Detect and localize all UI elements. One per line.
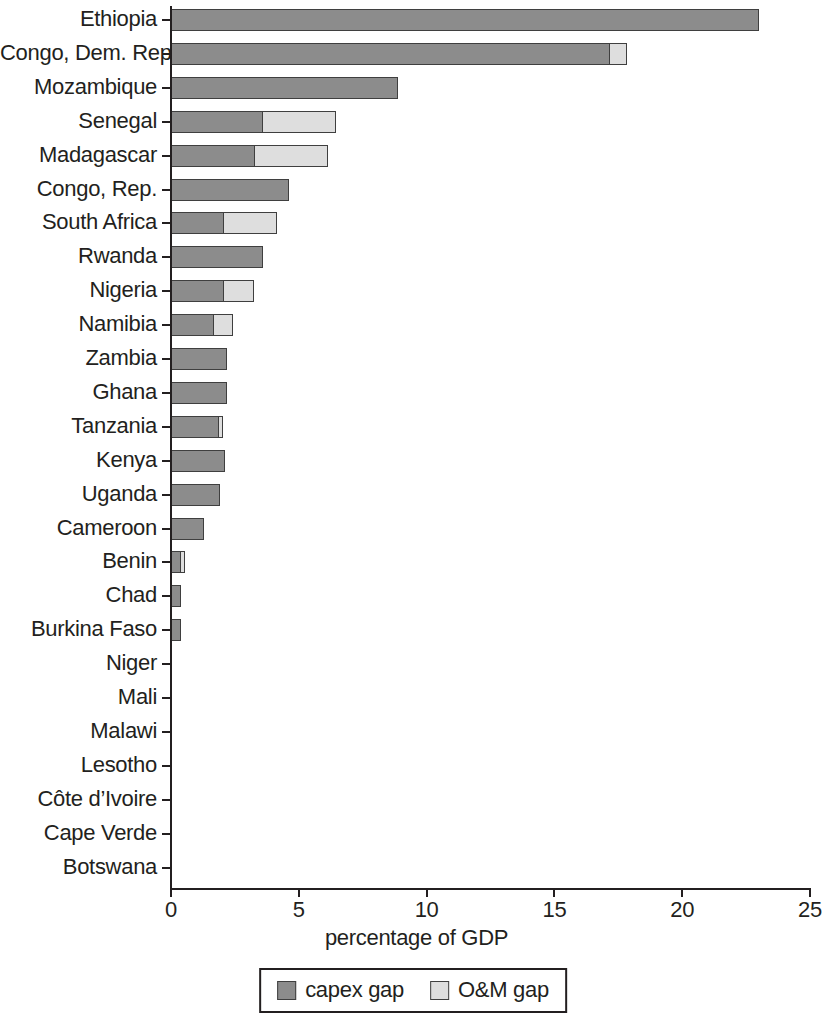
- bar-segment-capex-gap: [171, 585, 181, 607]
- bar-segment-capex-gap: [171, 179, 289, 201]
- x-axis-tick-label: 10: [415, 897, 439, 923]
- bar-segment-om-gap: [180, 551, 185, 573]
- bar-segment-capex-gap: [171, 246, 263, 268]
- bar-segment-om-gap: [223, 212, 277, 234]
- bar-segment-capex-gap: [171, 9, 759, 31]
- y-axis-tick-label: Cameroon: [0, 515, 157, 541]
- y-axis-tick-label: Burkina Faso: [0, 616, 157, 642]
- bar-row: Malawi: [0, 715, 826, 749]
- bar-row: Benin: [0, 545, 826, 579]
- bar-row: Tanzania: [0, 410, 826, 444]
- y-axis-tick-label: Mali: [0, 684, 157, 710]
- bar-row: Senegal: [0, 105, 826, 139]
- y-axis-tick-label: Ghana: [0, 379, 157, 405]
- y-axis-tick-label: Chad: [0, 582, 157, 608]
- bar-chart: EthiopiaCongo, Dem. Rep.MozambiqueSenega…: [0, 0, 826, 1013]
- y-axis-tick-label: Zambia: [0, 345, 157, 371]
- y-axis-tick-label: Tanzania: [0, 413, 157, 439]
- bar-row: Ghana: [0, 376, 826, 410]
- bar-row: Côte d’Ivoire: [0, 783, 826, 817]
- plot-area: EthiopiaCongo, Dem. Rep.MozambiqueSenega…: [0, 0, 826, 890]
- bar-segment-capex-gap: [171, 484, 220, 506]
- x-axis-tick: [553, 888, 555, 897]
- x-axis-tick: [298, 888, 300, 897]
- bar-segment-om-gap: [254, 145, 328, 167]
- stacked-bar: [171, 416, 223, 438]
- bar-row: Rwanda: [0, 240, 826, 274]
- stacked-bar: [171, 619, 181, 641]
- bar-row: Uganda: [0, 478, 826, 512]
- x-axis-tick: [426, 888, 428, 897]
- bar-segment-capex-gap: [171, 145, 255, 167]
- bar-segment-capex-gap: [171, 43, 611, 65]
- y-axis-tick-label: Malawi: [0, 718, 157, 744]
- stacked-bar: [171, 179, 289, 201]
- stacked-bar: [171, 43, 627, 65]
- stacked-bar: [171, 111, 336, 133]
- bar-row: Mozambique: [0, 71, 826, 105]
- legend-swatch-om-icon: [430, 981, 449, 1000]
- stacked-bar: [171, 382, 227, 404]
- bar-segment-capex-gap: [171, 280, 225, 302]
- y-axis-tick-label: Niger: [0, 650, 157, 676]
- y-axis-line: [170, 6, 172, 889]
- bar-row: Botswana: [0, 851, 826, 885]
- y-axis-tick-label: Côte d’Ivoire: [0, 786, 157, 812]
- y-axis-tick-label: Nigeria: [0, 277, 157, 303]
- bar-segment-capex-gap: [171, 212, 225, 234]
- bar-segment-capex-gap: [171, 348, 227, 370]
- bar-row: Nigeria: [0, 274, 826, 308]
- bar-segment-capex-gap: [171, 518, 204, 540]
- bar-row: Ethiopia: [0, 3, 826, 37]
- bar-row: Lesotho: [0, 749, 826, 783]
- x-axis-tick: [170, 888, 172, 897]
- x-axis-line: [170, 888, 809, 890]
- stacked-bar: [171, 212, 277, 234]
- y-axis-tick-label: Namibia: [0, 311, 157, 337]
- bar-row: Congo, Dem. Rep.: [0, 37, 826, 71]
- x-axis-title-label: percentage of GDP: [325, 925, 508, 950]
- y-axis-tick-label: Ethiopia: [0, 6, 157, 32]
- legend-label-capex: capex gap: [305, 977, 404, 1003]
- bar-row: Chad: [0, 579, 826, 613]
- bar-segment-om-gap: [213, 314, 233, 336]
- stacked-bar: [171, 484, 220, 506]
- y-axis-tick-label: Lesotho: [0, 752, 157, 778]
- x-axis-title: percentage of GDP: [0, 925, 826, 951]
- legend: capex gap O&M gap: [259, 968, 567, 1013]
- bar-row: Congo, Rep.: [0, 173, 826, 207]
- bar-row: Burkina Faso: [0, 613, 826, 647]
- bar-row: Niger: [0, 647, 826, 681]
- bar-segment-capex-gap: [171, 382, 227, 404]
- legend-swatch-capex-icon: [277, 981, 296, 1000]
- bar-segment-capex-gap: [171, 314, 214, 336]
- x-axis-tick-label: 25: [798, 897, 822, 923]
- y-axis-tick-label: Uganda: [0, 481, 157, 507]
- stacked-bar: [171, 450, 225, 472]
- bar-row: Cameroon: [0, 512, 826, 546]
- x-axis-tick-label: 15: [542, 897, 566, 923]
- stacked-bar: [171, 585, 181, 607]
- stacked-bar: [171, 280, 254, 302]
- bar-row: Cape Verde: [0, 817, 826, 851]
- stacked-bar: [171, 77, 398, 99]
- stacked-bar: [171, 551, 185, 573]
- bar-segment-capex-gap: [171, 111, 263, 133]
- stacked-bar: [171, 145, 328, 167]
- bar-segment-om-gap: [262, 111, 336, 133]
- legend-item-capex: capex gap: [277, 977, 404, 1003]
- bar-row: Zambia: [0, 342, 826, 376]
- bar-segment-capex-gap: [171, 416, 220, 438]
- y-axis-tick-label: Madagascar: [0, 142, 157, 168]
- x-axis-tick: [681, 888, 683, 897]
- y-axis-tick-label: Congo, Rep.: [0, 176, 157, 202]
- stacked-bar: [171, 348, 227, 370]
- legend-item-om: O&M gap: [430, 977, 549, 1003]
- x-axis-tick-label: 0: [165, 897, 177, 923]
- bar-segment-capex-gap: [171, 450, 225, 472]
- y-axis-tick-label: Cape Verde: [0, 820, 157, 846]
- y-axis-tick-label: Mozambique: [0, 74, 157, 100]
- x-axis-tick-label: 20: [670, 897, 694, 923]
- bar-segment-capex-gap: [171, 619, 181, 641]
- bar-row: Mali: [0, 681, 826, 715]
